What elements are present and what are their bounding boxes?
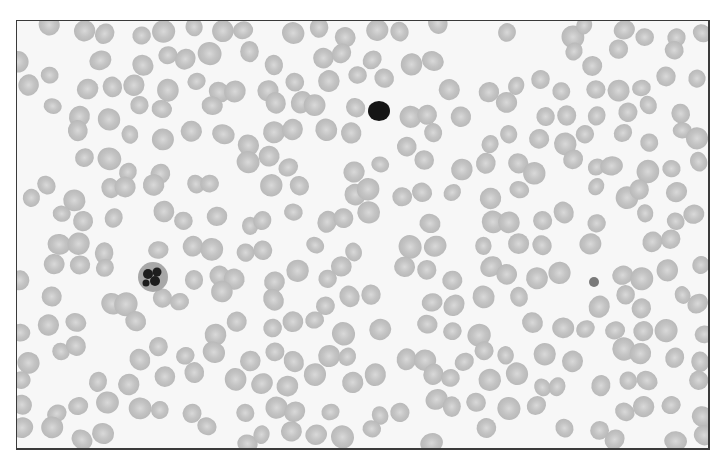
red-blood-cell xyxy=(72,210,94,233)
red-blood-cell xyxy=(420,232,450,261)
red-blood-cell xyxy=(528,67,553,92)
red-blood-cell xyxy=(17,414,36,441)
red-blood-cell xyxy=(63,228,94,259)
red-blood-cell xyxy=(339,121,363,146)
red-blood-cell xyxy=(278,307,307,336)
red-blood-cell xyxy=(279,116,306,144)
red-blood-cell xyxy=(149,21,179,46)
red-blood-cell xyxy=(605,77,632,104)
red-blood-cell xyxy=(682,203,706,226)
red-blood-cell xyxy=(552,415,577,441)
red-blood-cell xyxy=(659,393,684,417)
red-blood-cell xyxy=(440,180,464,204)
red-blood-cell xyxy=(530,340,559,369)
neutrophil xyxy=(138,262,168,292)
red-blood-cell xyxy=(278,418,304,444)
red-blood-cell xyxy=(616,285,636,305)
red-blood-cell xyxy=(529,207,556,234)
red-blood-cell xyxy=(69,255,91,276)
red-blood-cell xyxy=(550,198,577,226)
red-blood-cell xyxy=(114,370,143,399)
red-blood-cell xyxy=(417,211,442,235)
red-blood-cell xyxy=(338,368,367,397)
red-blood-cell xyxy=(210,21,235,44)
red-blood-cell xyxy=(336,282,364,311)
red-blood-cell xyxy=(418,431,445,450)
red-blood-cell xyxy=(183,361,205,384)
red-blood-cell xyxy=(656,258,679,282)
red-blood-cell xyxy=(694,325,710,344)
red-blood-cell xyxy=(35,21,64,39)
red-blood-cell xyxy=(544,257,575,288)
red-blood-cell xyxy=(617,370,639,392)
red-blood-cell xyxy=(157,78,179,102)
red-blood-cell xyxy=(589,373,612,398)
red-blood-cell xyxy=(689,21,710,46)
red-blood-cell xyxy=(303,234,327,257)
red-blood-cell xyxy=(366,315,395,344)
red-blood-cell xyxy=(67,425,96,450)
red-blood-cell xyxy=(361,284,382,306)
red-blood-cell xyxy=(443,396,461,417)
red-blood-cell xyxy=(278,21,308,48)
red-blood-cell xyxy=(42,253,65,276)
red-blood-cell xyxy=(39,65,61,86)
red-blood-cell xyxy=(585,104,608,128)
red-blood-cell xyxy=(147,240,169,260)
red-blood-cell xyxy=(687,68,707,89)
red-blood-cell xyxy=(87,370,109,394)
red-blood-cell xyxy=(17,51,29,73)
red-blood-cell xyxy=(550,80,573,103)
red-blood-cell xyxy=(171,45,200,74)
red-blood-cell xyxy=(150,362,179,391)
red-blood-cell xyxy=(476,184,505,213)
red-blood-cell xyxy=(178,118,205,145)
red-blood-cell xyxy=(496,21,518,44)
red-blood-cell xyxy=(73,75,102,103)
red-blood-cell xyxy=(171,209,195,233)
red-blood-cell xyxy=(17,269,30,291)
platelet xyxy=(589,277,599,287)
red-blood-cell xyxy=(224,368,247,392)
red-blood-cell xyxy=(636,93,660,118)
red-blood-cell xyxy=(518,308,547,337)
red-blood-cell xyxy=(669,101,693,126)
red-blood-cell xyxy=(233,400,259,426)
red-blood-cell xyxy=(260,315,286,341)
red-blood-cell xyxy=(440,319,464,343)
red-blood-cell xyxy=(259,285,288,315)
red-blood-cell xyxy=(523,392,550,419)
red-blood-cell xyxy=(638,131,660,154)
red-blood-cell xyxy=(335,344,359,369)
red-blood-cell xyxy=(395,231,426,263)
red-blood-cell xyxy=(629,317,657,345)
red-blood-cell xyxy=(196,233,228,265)
red-blood-cell xyxy=(475,237,492,255)
red-blood-cell xyxy=(633,367,661,394)
red-blood-cell xyxy=(578,52,606,80)
red-blood-cell xyxy=(21,187,42,209)
red-blood-cell xyxy=(168,291,191,312)
red-blood-cell xyxy=(474,416,499,441)
red-blood-cell xyxy=(608,39,629,60)
red-blood-cell xyxy=(585,292,614,322)
red-blood-cell xyxy=(231,21,255,42)
red-blood-cell xyxy=(302,421,330,448)
red-blood-cell xyxy=(440,269,464,293)
red-blood-cell xyxy=(662,178,690,205)
red-blood-cell xyxy=(447,103,475,131)
red-blood-cell xyxy=(610,120,636,146)
red-blood-cell xyxy=(71,144,97,170)
red-blood-cell xyxy=(559,347,587,375)
red-blood-cell xyxy=(599,155,624,177)
red-blood-cell xyxy=(439,290,469,320)
red-blood-cell xyxy=(327,421,359,450)
red-blood-cell xyxy=(526,126,551,151)
red-blood-cell xyxy=(436,76,464,104)
red-blood-cell xyxy=(420,291,445,313)
red-blood-cell xyxy=(194,38,225,69)
red-blood-cell xyxy=(687,149,710,173)
red-blood-cell xyxy=(657,225,685,253)
red-blood-cell xyxy=(17,323,31,342)
red-blood-cell xyxy=(319,401,341,422)
